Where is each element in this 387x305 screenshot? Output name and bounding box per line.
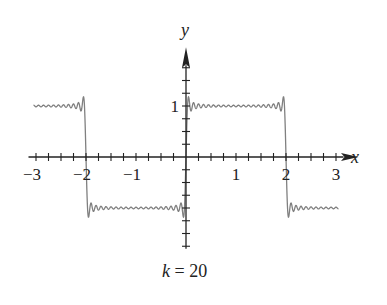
x-tick-label: 2: [282, 165, 291, 184]
y-axis-label: y: [179, 20, 189, 40]
fourier-square-wave-plot: −3−2−11231 x y k = 20: [0, 0, 387, 305]
x-tick-label: 3: [332, 165, 341, 184]
caption-value: = 20: [170, 261, 207, 281]
chart-caption: k = 20: [162, 261, 207, 281]
tick-labels: −3−2−11231: [23, 97, 340, 184]
x-axis-label: x: [350, 147, 359, 167]
x-tick-label: −1: [123, 165, 141, 184]
x-tick-label: −2: [73, 165, 91, 184]
y-axis-arrow-icon: [182, 47, 190, 67]
axes: [29, 47, 359, 248]
x-tick-label: −3: [23, 165, 41, 184]
y-tick-label: 1: [171, 97, 180, 116]
x-tick-label: 1: [232, 165, 241, 184]
